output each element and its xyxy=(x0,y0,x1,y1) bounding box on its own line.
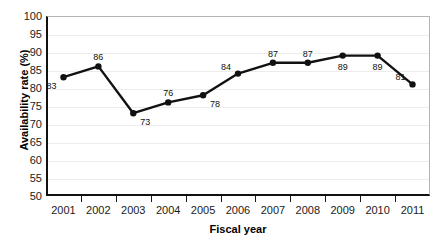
data-point-marker xyxy=(130,110,136,116)
data-point-label: 87 xyxy=(261,49,285,59)
data-point-marker xyxy=(305,60,311,66)
data-point-marker xyxy=(200,92,206,98)
data-point-label: 76 xyxy=(156,88,180,98)
data-point-marker xyxy=(165,99,171,105)
data-point-marker xyxy=(374,52,380,58)
data-point-marker xyxy=(60,74,66,80)
series-line xyxy=(64,56,413,114)
data-point-label: 84 xyxy=(214,62,238,72)
data-point-label: 86 xyxy=(86,52,110,62)
data-point-label: 78 xyxy=(203,99,227,109)
data-point-label: 83 xyxy=(39,81,63,91)
data-point-label: 87 xyxy=(296,49,320,59)
series-markers xyxy=(60,52,415,116)
data-point-marker xyxy=(340,52,346,58)
data-point-label: 73 xyxy=(133,117,157,127)
x-axis-title: Fiscal year xyxy=(46,222,430,236)
data-point-marker xyxy=(270,60,276,66)
data-point-label: 89 xyxy=(366,62,390,72)
availability-rate-line-chart: Availability rate (%) 100959085807570656… xyxy=(0,0,441,241)
data-point-marker xyxy=(95,63,101,69)
data-point-label: 81 xyxy=(389,72,413,82)
data-point-label: 89 xyxy=(331,62,355,72)
data-series-layer xyxy=(0,0,441,241)
